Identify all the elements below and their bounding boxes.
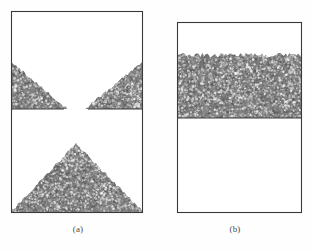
panel-b-caption: (b) [215, 224, 255, 234]
figure-container: (a) (b) [0, 0, 313, 251]
panel-a-caption: (a) [58, 224, 98, 234]
panel-b-graphic [0, 0, 313, 251]
